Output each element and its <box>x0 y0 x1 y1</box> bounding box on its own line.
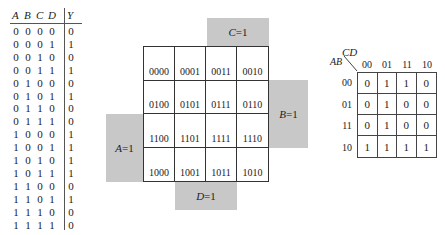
truth-table-cell: 1 <box>66 141 76 153</box>
kmap-filled-cell: 1 <box>358 136 378 157</box>
truth-table-cell: 0 <box>35 25 45 37</box>
truth-table-cell: 0 <box>11 51 21 63</box>
truth-table-cell: 0 <box>35 38 45 50</box>
region-d-equals-1: D=1 <box>175 182 237 210</box>
kmap-filled-cell: 0 <box>417 94 437 115</box>
truth-table-cell: 0 <box>66 206 76 218</box>
label-a-equals-1: A=1 <box>115 142 133 154</box>
kmap-filled-cell: 0 <box>417 73 437 94</box>
truth-table-cell: 1 <box>66 193 76 205</box>
truth-table-cell: 0 <box>11 77 21 89</box>
truth-table-header-d: D <box>48 9 56 21</box>
region-b-equals-1: B=1 <box>269 80 308 148</box>
truth-table-header-a: A <box>12 9 19 21</box>
truth-table-cell: 0 <box>11 115 21 127</box>
kmap-col-header: 11 <box>397 59 417 70</box>
truth-table-cell: 1 <box>47 193 57 205</box>
truth-table-cell: 0 <box>35 193 45 205</box>
kmap-template-cell: 1010 <box>237 148 268 182</box>
truth-table-cell: 0 <box>35 128 45 140</box>
truth-table-header-y: Y <box>67 9 73 21</box>
truth-table-cell: 0 <box>11 90 21 102</box>
truth-table-cell: 0 <box>47 206 57 218</box>
truth-table-cell: 0 <box>66 25 76 37</box>
kmap-filled-cell: 0 <box>358 115 378 136</box>
truth-table-header-rule <box>10 23 82 24</box>
kmap-filled-cell: 0 <box>358 73 378 94</box>
kmap-filled-cell: 0 <box>417 115 437 136</box>
truth-table-cell: 1 <box>47 64 57 76</box>
truth-table-header-c: C <box>36 9 43 21</box>
truth-table-cell: 1 <box>35 219 45 231</box>
truth-table-cell: 0 <box>23 25 33 37</box>
truth-table-cell: 1 <box>23 115 33 127</box>
truth-table-cell: 0 <box>35 90 45 102</box>
truth-table-cell: 1 <box>35 51 45 63</box>
region-c-equals-1: C=1 <box>207 18 269 46</box>
truth-table-cell: 0 <box>23 128 33 140</box>
truth-table-cell: 1 <box>23 102 33 114</box>
truth-table-cell: 0 <box>11 38 21 50</box>
truth-table-cell: 1 <box>11 206 21 218</box>
kmap-filled-cell: 1 <box>378 73 398 94</box>
truth-table-cell: 1 <box>35 206 45 218</box>
kmap-filled-cell: 1 <box>378 94 398 115</box>
label-d-equals-1: D=1 <box>196 190 216 202</box>
kmap-row-header: 00 <box>337 77 357 88</box>
kmap-row-header: 11 <box>337 120 357 131</box>
truth-table-cell: 1 <box>23 206 33 218</box>
truth-table-cell: 0 <box>23 64 33 76</box>
truth-table-cell: 1 <box>66 38 76 50</box>
kmap-filled-cell: 0 <box>358 94 378 115</box>
truth-table-cell: 1 <box>47 167 57 179</box>
truth-table-cell: 1 <box>47 115 57 127</box>
truth-table-cell: 0 <box>23 51 33 63</box>
truth-table-cell: 1 <box>35 115 45 127</box>
truth-table-cell: 1 <box>66 167 76 179</box>
kmap-template-grid: 0000000100110010010001010111011011001101… <box>143 46 269 182</box>
truth-table-cell: 0 <box>47 154 57 166</box>
truth-table-cell: 0 <box>66 219 76 231</box>
truth-table-cell: 0 <box>66 180 76 192</box>
truth-table-cell: 1 <box>47 219 57 231</box>
kmap-corner-ab: AB <box>330 56 342 67</box>
kmap-filled-cell: 1 <box>378 136 398 157</box>
kmap-template-cell: 0110 <box>237 81 268 115</box>
truth-table-cell: 1 <box>35 167 45 179</box>
kmap-col-header: 00 <box>357 59 377 70</box>
truth-table-cell: 0 <box>47 51 57 63</box>
kmap-template-cell: 1001 <box>175 148 206 182</box>
kmap-template-cell: 1110 <box>237 114 268 148</box>
truth-table-cell: 1 <box>35 102 45 114</box>
truth-table-cell: 1 <box>11 193 21 205</box>
truth-table-cell: 0 <box>11 25 21 37</box>
truth-table-cell: 1 <box>11 154 21 166</box>
truth-table-cell: 0 <box>47 77 57 89</box>
truth-table-cell: 1 <box>66 128 76 140</box>
kmap-col-header: 10 <box>417 59 437 70</box>
truth-table-cell: 0 <box>35 141 45 153</box>
truth-table-cell: 0 <box>23 141 33 153</box>
kmap-template-cell: 0100 <box>144 81 175 115</box>
kmap-template-cell: 0001 <box>175 47 206 81</box>
kmap-template-cell: 0111 <box>206 81 237 115</box>
truth-table-cell: 1 <box>11 141 21 153</box>
truth-table-cell: 0 <box>35 180 45 192</box>
truth-table-cell: 1 <box>47 38 57 50</box>
truth-table-cell: 0 <box>11 102 21 114</box>
kmap-template-cell: 1101 <box>175 114 206 148</box>
kmap-filled-cell: 1 <box>417 136 437 157</box>
truth-table-cell: 1 <box>35 64 45 76</box>
truth-table-cell: 0 <box>66 77 76 89</box>
kmap-template-cell: 1011 <box>206 148 237 182</box>
kmap-template-cell: 0101 <box>175 81 206 115</box>
truth-table-cell: 1 <box>11 167 21 179</box>
truth-table-cell: 0 <box>35 77 45 89</box>
kmap-filled-cell: 1 <box>378 115 398 136</box>
kmap-corner-diagonal <box>344 56 358 72</box>
kmap-filled-cell: 1 <box>397 136 417 157</box>
label-b-equals-1: B=1 <box>279 108 297 120</box>
truth-table-cell: 0 <box>47 180 57 192</box>
truth-table-cell: 1 <box>35 154 45 166</box>
region-a-equals-1: A=1 <box>106 114 143 182</box>
